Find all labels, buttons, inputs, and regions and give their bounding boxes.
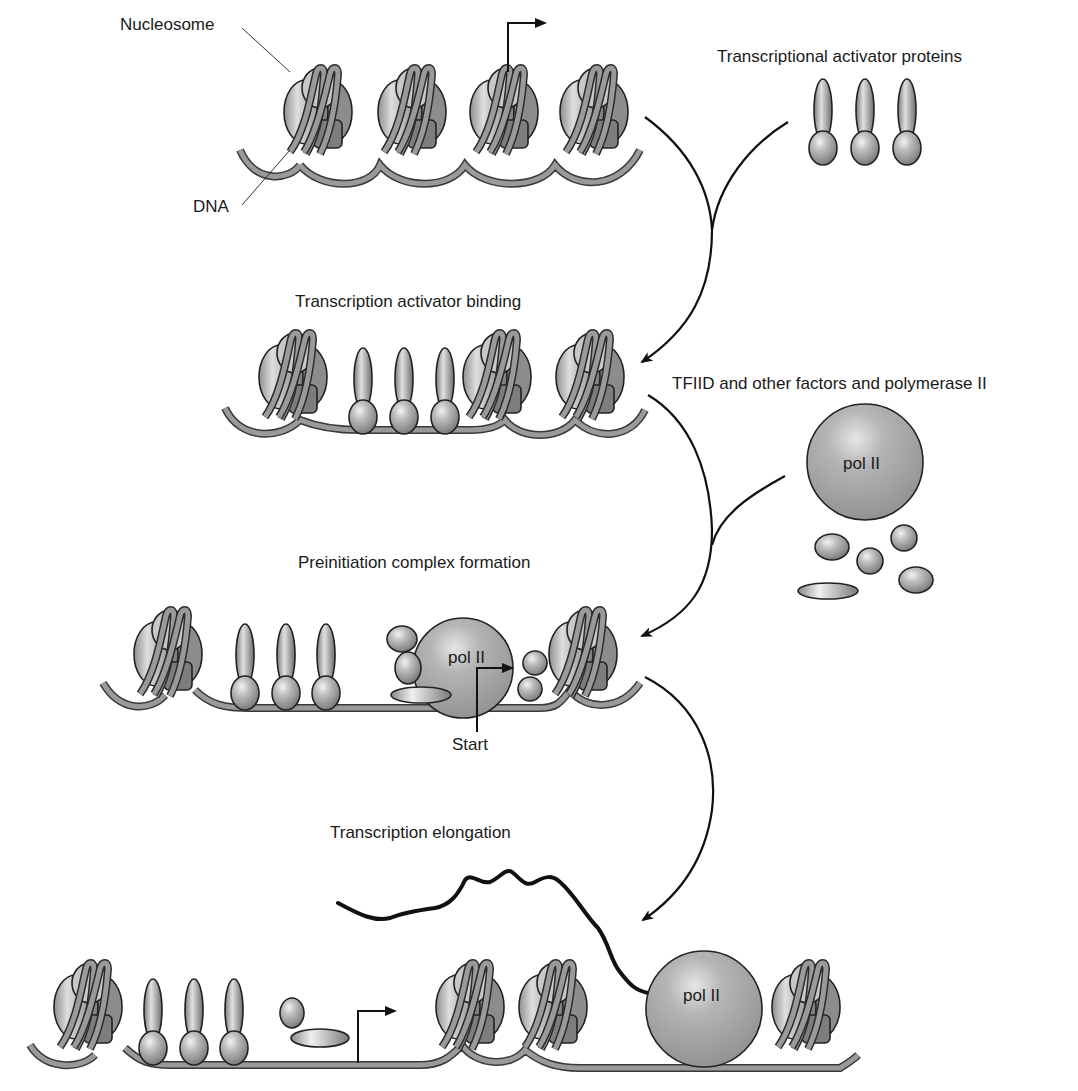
- bound-activator: [312, 624, 340, 710]
- stage2-label: Transcription activator binding: [295, 292, 521, 311]
- tata-binding-factor: [798, 583, 858, 599]
- general-factor: [857, 548, 883, 574]
- general-factor: [891, 525, 917, 551]
- bound-activator: [231, 624, 259, 710]
- factors-label: TFIID and other factors and polymerase I…: [672, 374, 987, 393]
- nucleosome-label: Nucleosome: [120, 15, 215, 34]
- remaining-factor: [280, 998, 304, 1028]
- general-factor: [387, 626, 417, 652]
- nucleosome: [259, 333, 327, 419]
- general-factor: [523, 651, 547, 675]
- stage-activator-binding: Transcription activator binding: [225, 292, 645, 435]
- transcription-diagram: Nucleosome DNA Transcriptional activator…: [0, 0, 1078, 1091]
- nucleosome: [378, 68, 446, 154]
- arrow-stage1-to-stage2: [642, 117, 788, 362]
- stage3-label: Preinitiation complex formation: [298, 553, 530, 572]
- nucleosome: [284, 68, 352, 154]
- bound-activator: [349, 348, 377, 434]
- nucleosome: [463, 333, 531, 419]
- nucleosome: [560, 68, 628, 154]
- start-site-arrow-icon: [358, 1011, 395, 1063]
- pol-ii-complex-label: pol II: [448, 648, 485, 667]
- bound-activator: [390, 348, 418, 434]
- arrow-stage3-to-stage4: [643, 677, 713, 920]
- dna-label: DNA: [193, 197, 230, 216]
- activators-label: Transcriptional activator proteins: [717, 47, 962, 66]
- pol-ii-elongating-label: pol II: [683, 986, 720, 1005]
- bound-activator: [220, 979, 248, 1065]
- free-activators: Transcriptional activator proteins: [717, 47, 962, 165]
- tfiid: [391, 687, 451, 703]
- nucleosome: [556, 333, 624, 419]
- tfiid: [291, 1029, 349, 1047]
- start-label: Start: [452, 735, 488, 754]
- general-factor: [899, 567, 933, 593]
- stage-elongation: Transcription elongation pol II: [30, 823, 858, 1068]
- nucleosome: [772, 963, 840, 1049]
- bound-activator: [272, 624, 300, 710]
- pol-ii-free-label: pol II: [843, 454, 880, 473]
- stage4-label: Transcription elongation: [330, 823, 511, 842]
- arrow-stage2-to-stage3: [642, 395, 785, 636]
- nucleosome: [549, 610, 617, 696]
- nucleosome: [436, 963, 504, 1049]
- stage-chromatin: Nucleosome DNA: [120, 15, 640, 216]
- free-factors: TFIID and other factors and polymerase I…: [672, 374, 987, 599]
- nucleosome: [54, 963, 122, 1049]
- activator-protein: [851, 79, 879, 165]
- bound-activator: [431, 348, 459, 434]
- activator-protein: [809, 79, 837, 165]
- nucleosome-leader-line: [242, 28, 290, 72]
- bound-activator: [180, 979, 208, 1065]
- nucleosome: [519, 963, 587, 1049]
- general-factor: [395, 652, 421, 684]
- start-arrow-icon: [508, 23, 545, 72]
- bound-activator: [139, 979, 167, 1065]
- general-factor: [518, 677, 542, 701]
- nucleosome: [470, 68, 538, 154]
- pol-ii-elongating: [646, 951, 762, 1067]
- activator-protein: [893, 79, 921, 165]
- general-factor: [815, 534, 849, 560]
- stage-preinitiation-complex: Preinitiation complex formation pol II S…: [103, 553, 640, 754]
- nucleosome: [134, 610, 202, 696]
